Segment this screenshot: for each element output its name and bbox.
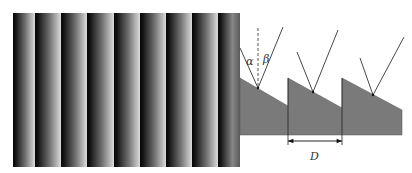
grating-stripe <box>140 13 166 167</box>
grating-stripe <box>87 13 114 167</box>
period-label: D <box>309 150 319 163</box>
blazed-grating-figure: α β D <box>0 0 412 173</box>
grating-stripe <box>166 13 192 167</box>
incidence-point <box>372 94 374 96</box>
diffracted-ray <box>373 37 404 95</box>
grating-stripe-photo <box>13 13 240 167</box>
incidence-point <box>312 91 314 93</box>
grating-stripe <box>61 13 87 167</box>
grating-stripe <box>114 13 140 167</box>
diffracted-ray <box>313 30 338 92</box>
diffracted-ray <box>258 27 283 88</box>
grating-stripe <box>192 13 218 167</box>
grating-cross-section <box>240 27 404 135</box>
grating-stripe <box>35 13 61 167</box>
grating-photo-edge <box>232 13 240 167</box>
grating-stripe <box>13 13 35 167</box>
alpha-label: α <box>246 55 254 68</box>
beta-label: β <box>262 53 269 66</box>
